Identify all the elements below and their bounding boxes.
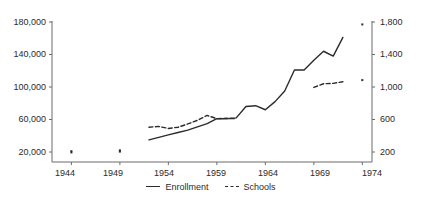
legend-line-dashed-icon	[225, 183, 239, 191]
data-point-marker	[70, 151, 72, 153]
data-point-marker	[361, 79, 363, 81]
series-line-schools-segment2	[314, 82, 343, 88]
legend-line-solid-icon	[146, 183, 160, 191]
chart-legend: Enrollment Schools	[0, 182, 422, 192]
data-series-layer	[70, 23, 363, 153]
series-line-schools	[149, 115, 236, 128]
series-line-enrollment	[149, 37, 343, 139]
legend-item-enrollment[interactable]: Enrollment	[146, 182, 208, 192]
chart-container: 180,000 140,000 100,000 60,000 20,000 1,…	[0, 0, 422, 204]
legend-label: Schools	[244, 182, 276, 192]
tick-marks	[49, 22, 375, 165]
axis-lines	[52, 21, 372, 162]
legend-label: Enrollment	[165, 182, 208, 192]
plot-area	[0, 0, 422, 204]
legend-item-schools[interactable]: Schools	[225, 182, 276, 192]
data-point-marker	[119, 151, 121, 153]
data-point-marker	[361, 23, 363, 25]
